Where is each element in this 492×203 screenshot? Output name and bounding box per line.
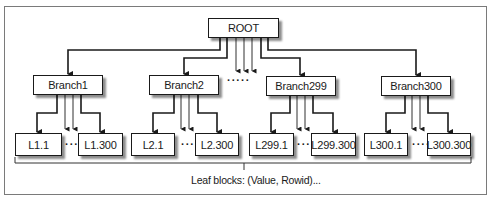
- leaf-caption: Leaf blocks: (Value, Rowid)...: [191, 174, 321, 186]
- branch-node-299: Branch299: [266, 76, 336, 96]
- root-label: ROOT: [228, 22, 259, 34]
- leaf-node: L1.1: [15, 133, 62, 156]
- branch-node-1: Branch1: [33, 75, 103, 95]
- leaf-label: L1.1: [28, 139, 49, 151]
- leaf-label: L300.1: [370, 139, 402, 151]
- branch-label: Branch300: [390, 80, 441, 92]
- leaf-node: L2.300: [195, 133, 239, 156]
- leaf-label: L299.300: [311, 139, 355, 151]
- leaf-node: L2.1: [131, 133, 175, 156]
- leaf-node: L300.300: [427, 133, 471, 156]
- leaf-node: L1.300: [78, 133, 123, 156]
- leaf-node: L299.300: [311, 133, 356, 156]
- root-node: ROOT: [208, 18, 279, 38]
- leaf-node: L299.1: [249, 133, 294, 156]
- branch-node-300: Branch300: [381, 76, 451, 96]
- branch-label: Branch299: [275, 80, 326, 92]
- branch-label: Branch2: [164, 79, 204, 91]
- leaf-label: L299.1: [255, 139, 287, 151]
- leaf-label: L1.300: [84, 139, 116, 151]
- branch-node-2: Branch2: [149, 75, 219, 95]
- leaf-label: L2.1: [143, 139, 164, 151]
- root-ellipsis: ·····: [227, 74, 250, 86]
- leaf-node: L300.1: [364, 133, 408, 156]
- leaf-label: L300.300: [427, 139, 471, 151]
- leaf-label: L2.300: [201, 139, 233, 151]
- branch-label: Branch1: [48, 79, 88, 91]
